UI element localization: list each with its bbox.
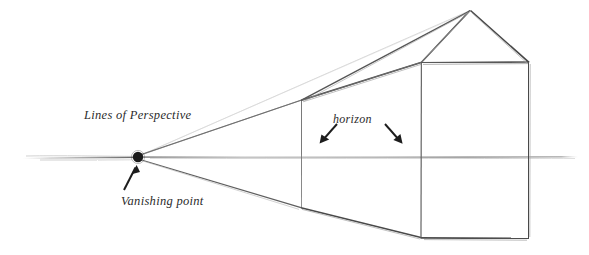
perspective-drawing-figure: Lines of Perspective Vanishing point hor… [0,0,589,255]
horizon-arrow-right-icon [385,124,403,144]
house-body-group [301,62,530,240]
box-front-bottom-horizontal [421,238,530,239]
horizon-line-smudge [40,159,132,160]
vanishing-point-dot [133,152,143,162]
vanishing-point-group [131,150,144,163]
label-lines-of-perspective: Lines of Perspective [84,108,191,123]
box-front-top-horizontal-ghost [423,64,528,65]
label-vanishing-point: Vanishing point [121,194,204,209]
ray-to-roof-apex-ghost [140,13,466,155]
roof-hip-line [422,11,471,62]
roof-ridge-line-ghost [304,13,468,102]
gable-right-slope-ghost [472,13,528,64]
gable-right-slope [471,11,530,63]
vanishing-point-arrow-icon [124,165,140,190]
label-horizon: horizon [333,112,372,127]
roof-ridge-line [302,11,470,100]
box-front-top-horizontal [421,62,530,63]
horizon-line-wisp-left [26,156,137,157]
box-bottom-receding-edge [301,208,421,238]
sketch-canvas [0,0,589,255]
box-bottom-receding-edge-ghost [302,209,420,239]
box-front-bottom-horizontal-ghost [424,240,527,241]
roof-group [302,11,529,102]
